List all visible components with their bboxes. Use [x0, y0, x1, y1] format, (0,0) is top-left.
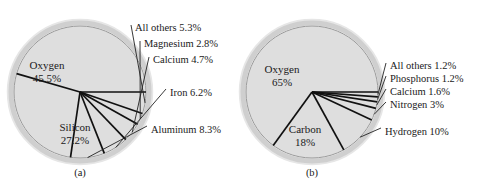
chart-a-caption: (a) [74, 167, 86, 179]
chart-a-slice-value-oxygen: 45.5% [33, 72, 61, 84]
chart-a-slice-label-all-others: All others 5.3% [135, 22, 201, 33]
chart-b-caption: (b) [306, 167, 319, 179]
chart-a-slice-label-magnesium: Magnesium 2.8% [144, 38, 218, 49]
chart-b-slice-label-hydrogen: Hydrogen 10% [385, 126, 449, 137]
chart-b-slice-label-carbon: Carbon [289, 123, 322, 135]
chart-b-slice-label-nitrogen: Nitrogen 3% [390, 99, 444, 110]
chart-b-slice-value-carbon: 18% [295, 136, 315, 148]
chart-b-slice-label-all-others: All others 1.2% [390, 60, 456, 71]
chart-a-group: Oxygen 45.5% Silicon 27.2% All others 5.… [8, 20, 221, 179]
pie-charts-svg: Oxygen 45.5% Silicon 27.2% All others 5.… [0, 0, 477, 183]
figure-container: Oxygen 45.5% Silicon 27.2% All others 5.… [0, 0, 477, 183]
chart-b-slice-label-calcium: Calcium 1.6% [390, 86, 450, 97]
chart-a-slice-label-iron: Iron 6.2% [170, 87, 212, 98]
chart-a-slice-label-aluminum: Aluminum 8.3% [151, 124, 221, 135]
chart-a-slice-value-silicon: 27.2% [61, 134, 89, 146]
chart-b-slice-label-phosphorus: Phosphorus 1.2% [390, 73, 464, 84]
chart-b-group: Oxygen 65% Carbon 18% All others 1.2% Ph… [240, 20, 464, 179]
chart-a-slice-label-calcium: Calcium 4.7% [153, 54, 213, 65]
chart-b-slice-value-oxygen: 65% [272, 76, 292, 88]
chart-a-slice-label-silicon: Silicon [59, 121, 91, 133]
chart-a-slice-label-oxygen: Oxygen [30, 59, 65, 71]
chart-b-slice-label-oxygen: Oxygen [265, 63, 300, 75]
